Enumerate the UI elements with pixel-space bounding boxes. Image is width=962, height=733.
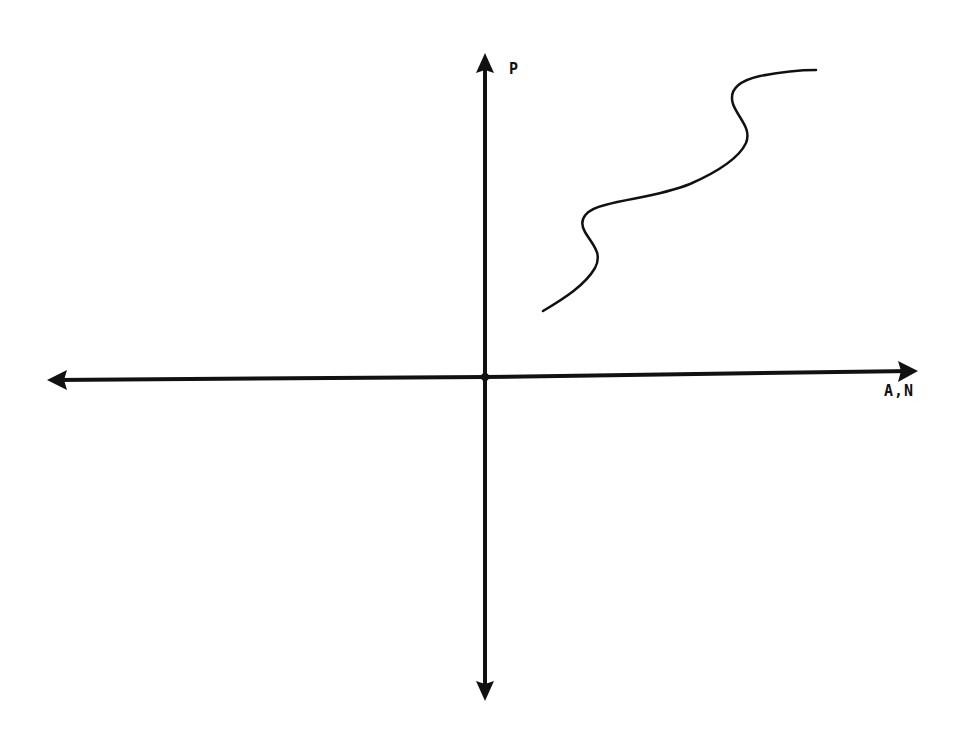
right-arrow-icon (898, 361, 918, 382)
y-axis-label: P (509, 60, 519, 78)
left-arrow-icon (47, 370, 67, 390)
origin-marker (481, 373, 489, 381)
x-axis-label: A,N (884, 382, 914, 400)
down-arrow-icon (476, 681, 494, 701)
s-curve (543, 70, 816, 311)
up-arrow-icon (476, 53, 494, 73)
diagram-canvas (0, 0, 962, 733)
